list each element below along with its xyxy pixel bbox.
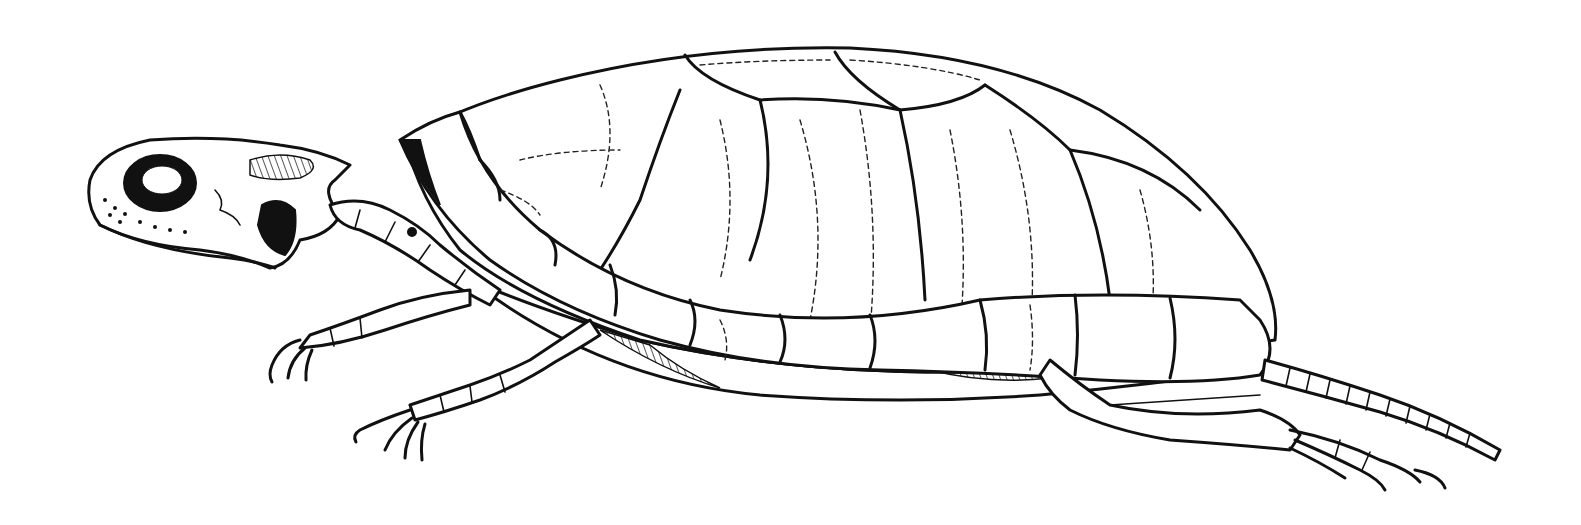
forelimb-right <box>355 320 600 460</box>
turtle-skeleton-illustration <box>0 0 1581 525</box>
tail-vertebrae <box>1262 360 1500 460</box>
forelimb-left <box>270 290 470 382</box>
skull <box>89 138 350 268</box>
